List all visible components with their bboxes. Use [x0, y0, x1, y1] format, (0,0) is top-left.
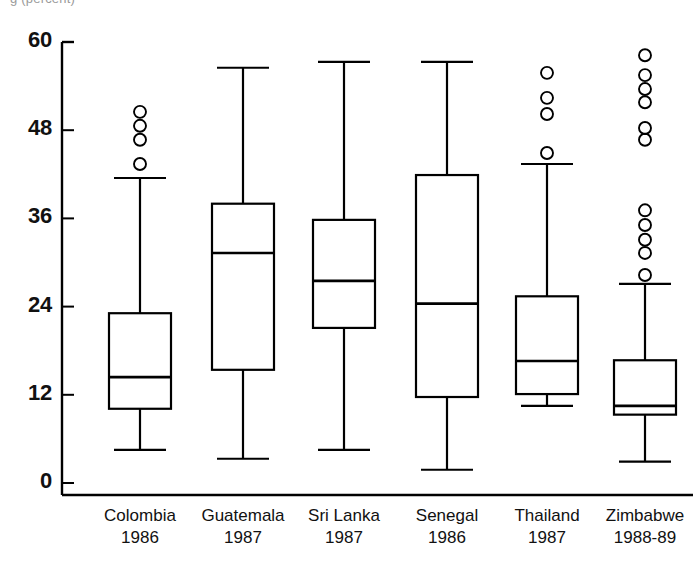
box-iqr — [212, 204, 274, 370]
box-plot-canvas — [0, 0, 697, 567]
outlier-point — [541, 147, 553, 159]
outlier-point — [541, 108, 553, 120]
x-tick-label-guatemala: Guatemala1987 — [201, 505, 284, 549]
box-plot-figure: g (percent) 01224364860 Colombia1986Guat… — [0, 0, 697, 567]
y-tick-label: 12 — [8, 380, 52, 406]
y-tick-label: 48 — [8, 115, 52, 141]
outlier-point — [639, 134, 651, 146]
x-tick-year: 1987 — [514, 527, 579, 549]
x-tick-country: Guatemala — [201, 505, 284, 527]
axes — [62, 42, 693, 495]
outlier-point — [134, 120, 146, 132]
box-plot-thailand — [516, 67, 578, 406]
y-tick-label: 0 — [8, 468, 52, 494]
outlier-point — [639, 83, 651, 95]
box-iqr — [416, 175, 478, 397]
outlier-point — [639, 247, 651, 259]
x-tick-country: Colombia — [104, 505, 176, 527]
x-tick-label-sri-lanka: Sri Lanka1987 — [308, 505, 380, 549]
outlier-point — [639, 234, 651, 246]
box-iqr — [313, 220, 375, 328]
outlier-point — [541, 67, 553, 79]
x-tick-country: Zimbabwe — [606, 505, 684, 527]
outlier-point — [639, 269, 651, 281]
outlier-point — [134, 106, 146, 118]
y-tick-label: 36 — [8, 203, 52, 229]
x-tick-year: 1987 — [308, 527, 380, 549]
x-tick-country: Senegal — [416, 505, 478, 527]
box-plot-colombia — [109, 106, 171, 450]
outlier-point — [134, 134, 146, 146]
y-tick-label: 24 — [8, 292, 52, 318]
x-tick-country: Sri Lanka — [308, 505, 380, 527]
x-tick-country: Thailand — [514, 505, 579, 527]
x-tick-year: 1986 — [104, 527, 176, 549]
box-series — [109, 49, 676, 470]
outlier-point — [134, 158, 146, 170]
box-iqr — [516, 296, 578, 394]
box-plot-zimbabwe — [614, 49, 676, 461]
box-plot-senegal — [416, 62, 478, 470]
x-tick-year: 1987 — [201, 527, 284, 549]
x-tick-year: 1986 — [416, 527, 478, 549]
outlier-point — [639, 96, 651, 108]
outlier-point — [639, 122, 651, 134]
outlier-point — [639, 219, 651, 231]
outlier-point — [541, 92, 553, 104]
box-plot-guatemala — [212, 68, 274, 459]
x-tick-label-zimbabwe: Zimbabwe1988-89 — [606, 505, 684, 549]
outlier-point — [639, 204, 651, 216]
box-iqr — [109, 313, 171, 409]
x-tick-label-thailand: Thailand1987 — [514, 505, 579, 549]
box-plot-sri-lanka — [313, 62, 375, 450]
x-tick-year: 1988-89 — [606, 527, 684, 549]
x-tick-label-colombia: Colombia1986 — [104, 505, 176, 549]
outlier-point — [639, 69, 651, 81]
y-tick-label: 60 — [8, 27, 52, 53]
x-tick-label-senegal: Senegal1986 — [416, 505, 478, 549]
outlier-point — [639, 49, 651, 61]
